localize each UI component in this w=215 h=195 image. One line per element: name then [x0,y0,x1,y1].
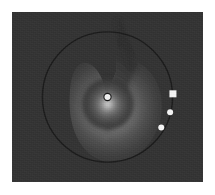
point-source-marker[interactable] [104,93,111,100]
core-glow [82,78,134,130]
circle-marker-2[interactable] [158,124,164,130]
plot-svg [12,12,203,182]
figure-canvas [0,0,215,195]
circle-marker-1[interactable] [167,109,173,115]
plot-area [12,12,203,182]
square-marker[interactable] [169,90,176,97]
